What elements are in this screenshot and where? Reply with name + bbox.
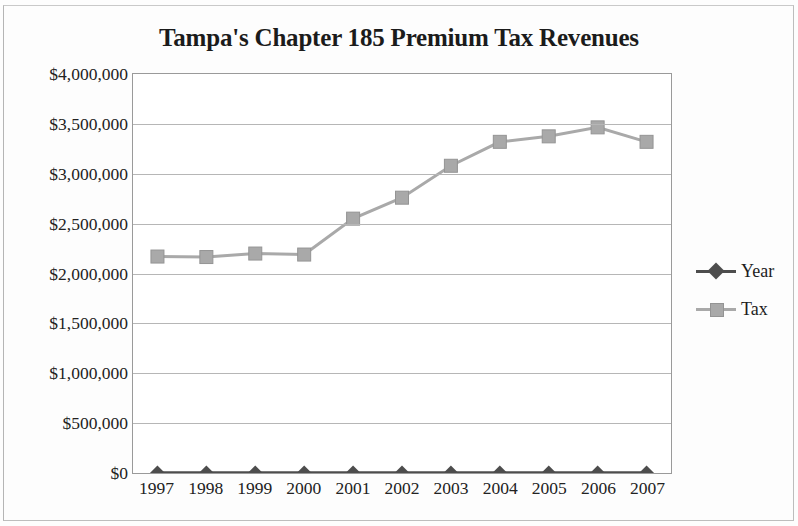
y-axis-tick-label: $1,000,000	[4, 363, 128, 384]
x-axis-tick-label: 2002	[377, 478, 426, 510]
x-axis-tick-label: 1998	[181, 478, 230, 510]
legend-item-tax[interactable]: Tax	[696, 290, 792, 328]
x-axis-tick-label: 2004	[476, 478, 525, 510]
data-point-tax	[444, 159, 457, 172]
legend-swatch-tax	[696, 302, 736, 316]
y-axis-tick-label: $1,500,000	[4, 313, 128, 334]
data-point-year	[199, 466, 214, 474]
plot-area	[132, 73, 672, 474]
x-axis-tick-label: 2001	[328, 478, 377, 510]
gridline	[133, 373, 671, 374]
x-axis-tick-label: 1999	[230, 478, 279, 510]
gridline	[133, 124, 671, 125]
y-axis-tick-label: $2,000,000	[4, 263, 128, 284]
chart-page: Tampa's Chapter 185 Premium Tax Revenues…	[0, 0, 798, 526]
legend-swatch-year	[696, 264, 736, 278]
data-point-tax	[151, 250, 164, 263]
data-point-year	[297, 466, 312, 474]
x-axis-tick-label: 1997	[132, 478, 181, 510]
y-axis-tick-label: $2,500,000	[4, 213, 128, 234]
data-point-year	[492, 466, 507, 474]
x-axis-tick-label: 2000	[279, 478, 328, 510]
y-axis-tick-label: $3,500,000	[4, 113, 128, 134]
legend-label: Year	[736, 261, 774, 282]
data-point-year	[590, 466, 605, 474]
y-axis-tick-label: $500,000	[4, 413, 128, 434]
legend-marker-diamond-icon	[708, 263, 725, 280]
data-point-year	[395, 466, 410, 474]
data-point-tax	[200, 251, 213, 264]
x-axis-tick-label: 2007	[623, 478, 672, 510]
y-axis: $4,000,000$3,500,000$3,000,000$2,500,000…	[0, 73, 128, 474]
data-point-tax	[396, 191, 409, 204]
x-axis-tick-label: 2006	[574, 478, 623, 510]
data-point-year	[639, 466, 654, 474]
gridline	[133, 174, 671, 175]
data-point-tax	[249, 247, 262, 260]
data-point-tax	[591, 121, 604, 134]
data-point-year	[248, 466, 263, 474]
data-point-tax	[640, 135, 653, 148]
gridline	[133, 423, 671, 424]
y-axis-tick-label: $0	[4, 463, 128, 484]
data-point-year	[150, 466, 165, 474]
data-point-tax	[298, 248, 311, 261]
chart-legend: YearTax	[696, 252, 792, 328]
gridline	[133, 224, 671, 225]
legend-item-year[interactable]: Year	[696, 252, 792, 290]
y-axis-tick-label: $4,000,000	[4, 64, 128, 85]
data-point-year	[541, 466, 556, 474]
gridline	[133, 323, 671, 324]
data-point-tax	[542, 130, 555, 143]
y-axis-tick-label: $3,000,000	[4, 163, 128, 184]
x-axis-tick-label: 2003	[427, 478, 476, 510]
x-axis-tick-label: 2005	[525, 478, 574, 510]
chart-title: Tampa's Chapter 185 Premium Tax Revenues	[0, 24, 798, 52]
data-point-year	[346, 466, 361, 474]
data-point-tax	[493, 135, 506, 148]
legend-label: Tax	[736, 299, 768, 320]
data-point-year	[443, 466, 458, 474]
gridline	[133, 274, 671, 275]
x-axis: 1997199819992000200120022003200420052006…	[132, 478, 672, 510]
legend-marker-square-icon	[710, 303, 724, 317]
